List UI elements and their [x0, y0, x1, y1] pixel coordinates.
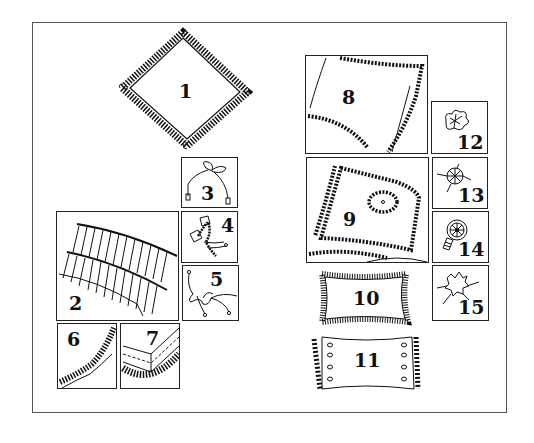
item-3-label: 3: [201, 184, 214, 203]
item-13-box: 13: [432, 157, 488, 209]
item-8-label: 8: [342, 88, 355, 107]
item-7-box: 7: [120, 323, 180, 389]
item-1-diamond-pillow: 1: [118, 28, 252, 150]
beaded-piping-pillow-icon: [306, 56, 428, 154]
item-9-label: 9: [343, 210, 356, 229]
item-7-label: 7: [146, 329, 159, 348]
item-10-label: 10: [353, 289, 379, 308]
item-5-label: 5: [210, 270, 223, 289]
item-14-box: 14: [432, 211, 489, 263]
item-10-fringe-pillow: 10: [316, 268, 414, 328]
item-2-box: 2: [56, 211, 179, 321]
item-3-box: 3: [181, 157, 238, 208]
item-15-label: 15: [458, 298, 484, 317]
item-4-label: 4: [221, 216, 234, 235]
item-11-button-pillow: 11: [310, 333, 422, 393]
item-12-label: 12: [457, 133, 483, 152]
item-15-box: 15: [432, 265, 489, 321]
item-8-box: 8: [305, 55, 428, 154]
item-9-box: 9: [306, 157, 429, 263]
item-2-label: 2: [69, 294, 82, 313]
item-6-box: 6: [57, 323, 117, 389]
item-14-label: 14: [458, 240, 484, 259]
item-4-box: 4: [181, 211, 238, 263]
item-12-box: 12: [431, 101, 488, 154]
double-beaded-pillow-icon: [307, 158, 429, 263]
item-6-label: 6: [67, 330, 80, 349]
item-5-box: 5: [182, 265, 239, 321]
item-13-label: 13: [458, 186, 484, 205]
item-11-label: 11: [354, 351, 380, 370]
item-1-label: 1: [179, 82, 192, 101]
